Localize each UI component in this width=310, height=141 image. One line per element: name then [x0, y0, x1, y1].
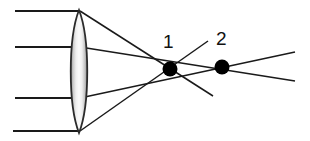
- incoming-ray-group: [13, 11, 79, 131]
- refracted-ray-from-lower-mid: [80, 52, 295, 98]
- focal-point-2-dot: [215, 60, 230, 75]
- refracted-ray-from-bottom-edge: [80, 41, 208, 131]
- focal-point-1-dot: [163, 62, 178, 77]
- refracted-ray-from-upper-mid: [80, 47, 295, 81]
- refracted-ray-group: [80, 11, 295, 131]
- lens-outline: [71, 10, 88, 133]
- focal-point-1-label: 1: [163, 32, 174, 51]
- focal-point-group: [163, 60, 230, 77]
- converging-lens: [71, 10, 88, 133]
- diagram-canvas: [0, 0, 310, 141]
- focal-point-2-label: 2: [216, 29, 227, 48]
- lens-ray-diagram: 1 2: [0, 0, 310, 141]
